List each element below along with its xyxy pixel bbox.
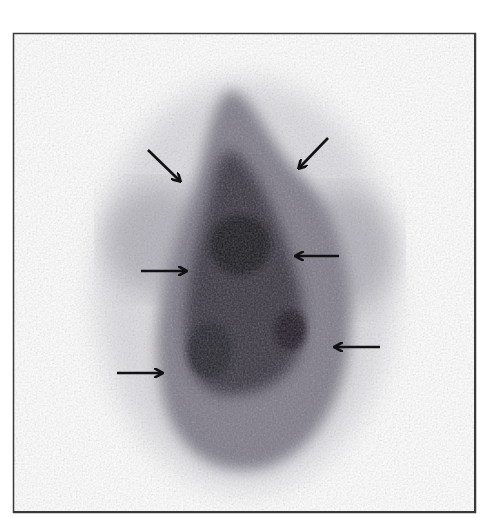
image-grain bbox=[14, 34, 474, 511]
scintigraphy-image bbox=[0, 0, 488, 518]
